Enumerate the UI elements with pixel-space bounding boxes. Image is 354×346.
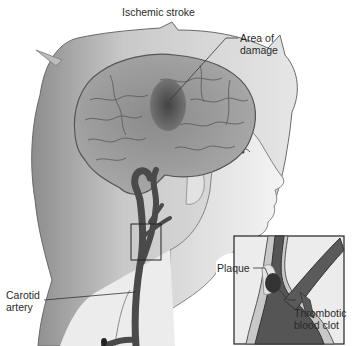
blood-clot <box>265 273 281 293</box>
area-of-damage-label-line2: damage <box>240 44 278 56</box>
clot-label-line1: Thrombotic <box>294 307 347 319</box>
carotid-label-line2: artery <box>6 301 33 313</box>
area-of-damage-label-line1: Area of <box>240 32 274 44</box>
stroke-illustration <box>0 0 354 346</box>
carotid-label-line1: Carotid <box>6 289 40 301</box>
clot-label-line2: blood clot <box>294 319 339 331</box>
title-label: Ischemic stroke <box>122 6 195 18</box>
plaque-label: Plaque <box>217 262 250 274</box>
damage-area <box>150 79 186 131</box>
